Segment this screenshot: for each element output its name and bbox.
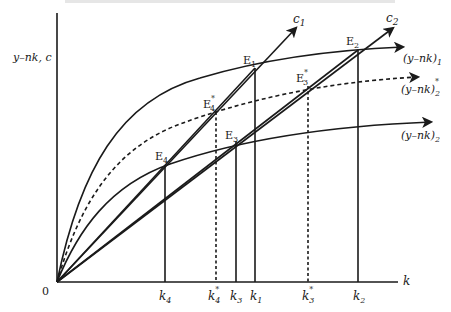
curve-y-nk-1	[57, 47, 403, 282]
tick-k4-star: k*4	[208, 285, 220, 305]
tick-k1: k1	[250, 289, 262, 305]
label-e2: E2	[346, 35, 359, 50]
label-e1: E1	[243, 54, 256, 69]
label-e4-star: E*4	[203, 94, 215, 113]
tick-k3: k3	[230, 289, 242, 305]
steady-state-diagram: y–nk, c k 0 c1 c2 (y–nk)1 (y–nk)*2 (y–nk…	[0, 0, 451, 312]
label-y-nk-1: (y–nk)1	[403, 52, 442, 67]
ray-through-e3	[57, 50, 358, 282]
cropped-title-strip	[65, 0, 395, 3]
label-e3-star: E*3	[296, 68, 308, 87]
label-y-nk-2: (y–nk)2	[401, 129, 440, 144]
label-c2: c2	[386, 11, 399, 27]
x-axis-label: k	[403, 274, 410, 288]
tick-k3-star: k*3	[302, 285, 314, 305]
label-e4: E4	[155, 150, 168, 165]
label-e3: E3	[225, 129, 238, 144]
curve-y-nk-2-star	[57, 77, 418, 282]
curve-y-nk-2	[57, 122, 431, 282]
tick-k4: k4	[159, 289, 171, 305]
ray-through-e4	[57, 68, 255, 282]
tick-k2: k2	[353, 289, 365, 305]
label-y-nk-2-star: (y–nk)*2	[401, 77, 440, 98]
label-c1: c1	[293, 12, 305, 28]
origin-label: 0	[42, 285, 49, 298]
y-axis-label: y–nk, c	[12, 51, 52, 64]
